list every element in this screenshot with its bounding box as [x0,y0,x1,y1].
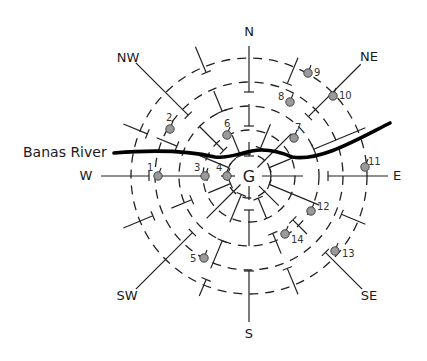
transect-segment [171,200,191,208]
point-label: 13 [342,248,355,259]
direction-label-nw: NW [117,50,140,65]
sample-point-7: 7 [290,122,302,142]
point-label: 4 [216,162,222,173]
sample-point-5: 5 [190,250,208,264]
transect-segment [269,184,319,205]
direction-label-n: N [244,24,254,39]
sample-point-3: 3 [194,162,209,180]
point-marker [201,172,209,180]
point-marker [166,125,174,133]
river-line [114,123,390,158]
point-label: 14 [291,234,304,245]
sample-point-6: 6 [223,118,231,139]
point-label: 12 [317,201,330,212]
transect-segment [195,47,206,73]
point-marker [304,69,312,77]
sample-point-13: 13 [331,243,355,259]
point-label: 7 [295,122,301,133]
transect-segment [123,124,147,134]
point-marker [223,172,231,180]
sample-points: 1234567891011121314 [147,65,381,264]
point-marker [281,230,289,238]
point-marker [223,131,231,139]
transect-segment [341,214,365,224]
point-label: 3 [194,162,200,173]
point-label: 8 [278,91,284,102]
transect-segment [136,63,188,115]
sample-point-10: 10 [329,88,352,101]
point-label: 9 [314,67,320,78]
direction-label-ne: NE [360,49,378,64]
transect-segment [208,184,230,193]
sample-point-12: 12 [307,201,330,215]
transect-segment [287,268,298,294]
transect-segment [287,58,298,84]
sample-point-8: 8 [278,91,294,106]
radial-sampling-diagram: 1234567891011121314 NNEESESSWWNW G Banas… [0,0,427,361]
direction-label-sw: SW [116,288,137,303]
transect-segment [269,158,291,167]
point-marker [329,92,337,100]
transect-segment [214,91,222,111]
center-label: G [243,167,255,186]
point-marker [200,254,208,262]
point-marker [286,98,294,106]
sample-point-9: 9 [304,65,321,78]
point-marker [331,247,339,255]
point-marker [154,172,162,180]
transect-segment [230,194,241,222]
point-label: 1 [147,162,153,173]
transect-segment [207,184,241,218]
sample-point-11: 11 [361,156,381,171]
transect-segment [273,233,281,253]
transect-segment [200,127,224,151]
point-label: 10 [339,90,352,101]
sample-point-14: 14 [281,226,304,245]
river-label: Banas River [23,144,107,160]
sample-point-2: 2 [166,112,174,133]
point-label: 2 [166,112,172,123]
transect-segment [136,233,193,290]
transect-segment [260,124,270,148]
point-marker [290,134,298,142]
point-label: 11 [368,156,381,167]
direction-label-se: SE [361,288,377,303]
direction-label-s: S [245,326,253,341]
transect-segment [199,279,206,296]
point-label: 6 [224,118,230,129]
transect-segment [258,198,266,218]
sample-point-4: 4 [216,162,231,180]
direction-label-e: E [393,168,401,183]
transect-segment [259,186,279,206]
transect-segment [293,220,307,234]
point-marker [307,207,315,215]
direction-label-w: W [80,168,93,183]
point-label: 5 [190,253,196,264]
